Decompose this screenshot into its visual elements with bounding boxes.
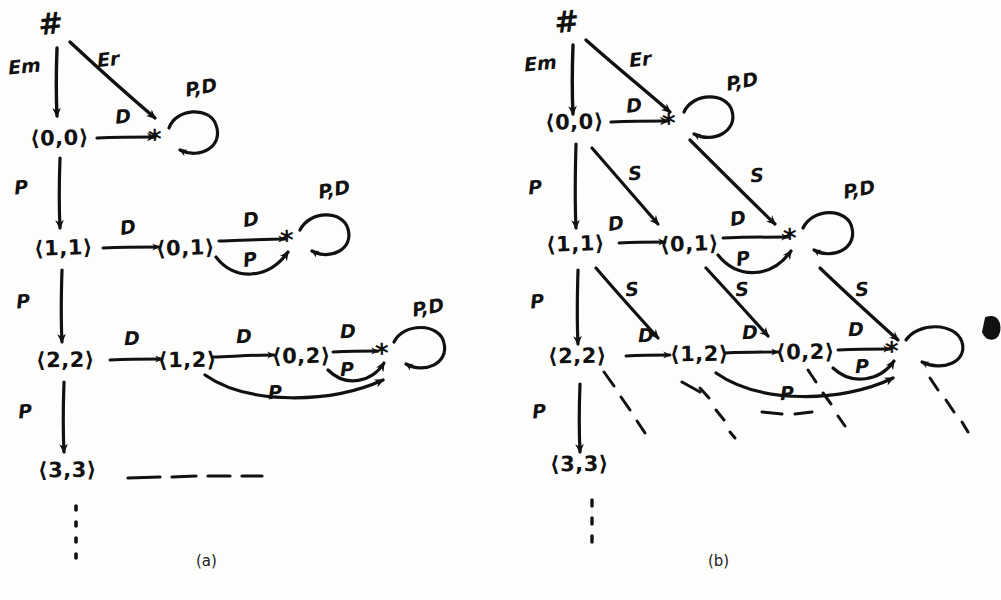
edge-label-em-b: Em — [523, 51, 558, 76]
edge-label-p-b-22-33: P — [531, 399, 547, 422]
state-node-b-01[interactable]: ⟨0,1⟩ — [660, 231, 720, 257]
edge-label-d-b-02-star: D — [848, 318, 865, 341]
edge-label-p-a-01-star: P — [242, 247, 259, 271]
edge-label-d-b-01-star: D — [729, 206, 748, 230]
edge-label-d-a-22-12: D — [124, 327, 141, 350]
figure-canvas: # Em Er ⟨0,0⟩ D * P,D P ⟨1,1⟩ D ⟨0,1⟩ D … — [0, 0, 1001, 600]
edge-label-d-b-12-02: D — [742, 321, 759, 344]
edge-label-d-a-12-02: D — [236, 325, 253, 348]
edge-label-p-b-11-22: P — [529, 289, 545, 312]
edge-label-p-a-00-11: P — [13, 175, 29, 198]
state-node-b-12[interactable]: ⟨1,2⟩ — [670, 342, 729, 367]
edge-label-p-a-22-33: P — [17, 399, 33, 422]
caption-b: (b) — [708, 552, 729, 570]
state-node-a-00[interactable]: ⟨0,0⟩ — [30, 125, 89, 150]
state-node-a-01[interactable]: ⟨0,1⟩ — [156, 235, 216, 261]
state-node-a-star1[interactable]: * — [148, 124, 163, 154]
edge-label-d-a-02-star: D — [340, 320, 357, 343]
edge-label-d-b-11-01: D — [607, 211, 626, 235]
state-node-b-star3[interactable]: * — [885, 336, 900, 366]
edge-label-em-a: Em — [7, 54, 42, 79]
edge-label-p-b-12-star: P — [780, 382, 795, 404]
start-symbol-b: # — [552, 3, 581, 40]
state-node-a-33[interactable]: ⟨3,3⟩ — [38, 458, 97, 483]
state-node-a-22[interactable]: ⟨2,2⟩ — [36, 348, 95, 373]
state-node-a-02[interactable]: ⟨0,2⟩ — [272, 344, 331, 369]
edge-label-p-b-01-star: P — [735, 246, 752, 270]
state-node-a-11[interactable]: ⟨1,1⟩ — [34, 235, 94, 261]
state-node-b-11[interactable]: ⟨1,1⟩ — [546, 231, 606, 257]
edge-label-p-a-11-22: P — [15, 289, 31, 312]
edge-label-er-b: Er — [628, 47, 652, 71]
caption-a: (a) — [196, 552, 217, 570]
edge-label-s-b-star2-star3: S — [854, 277, 870, 300]
state-node-b-22[interactable]: ⟨2,2⟩ — [548, 344, 607, 369]
state-node-b-00[interactable]: ⟨0,0⟩ — [545, 109, 604, 134]
edge-label-d-a-11-01: D — [119, 215, 138, 239]
edge-label-s-b-01-02: S — [734, 277, 750, 300]
edge-label-d-a-01-star: D — [242, 207, 261, 231]
state-node-b-star1[interactable]: * — [662, 108, 677, 138]
state-node-a-star3[interactable]: * — [375, 338, 390, 368]
edge-label-p-b-02-star: P — [855, 355, 870, 377]
state-node-b-02[interactable]: ⟨0,2⟩ — [776, 340, 835, 365]
state-node-a-star2[interactable]: * — [280, 225, 295, 255]
state-node-a-12[interactable]: ⟨1,2⟩ — [158, 348, 217, 373]
edge-label-p-a-12-star: P — [268, 381, 283, 403]
state-node-b-33[interactable]: ⟨3,3⟩ — [550, 452, 609, 477]
edge-label-d-b-00-star: D — [625, 93, 643, 116]
start-symbol-a: # — [36, 5, 65, 42]
edge-label-er-a: Er — [96, 47, 120, 71]
edge-label-s-b-star1-star2: S — [749, 163, 765, 186]
edge-label-p-a-02-star: P — [340, 358, 355, 380]
edge-label-d-a-00-star: D — [114, 104, 132, 127]
edge-label-s-b-00-01: S — [627, 161, 643, 184]
edge-label-d-b-22-12: D — [638, 324, 655, 347]
edge-label-p-b-00-11: P — [527, 175, 543, 198]
state-node-b-star2[interactable]: * — [783, 223, 798, 253]
edge-label-s-b-11-12: S — [624, 277, 640, 300]
diagram-strokes — [0, 0, 1001, 600]
